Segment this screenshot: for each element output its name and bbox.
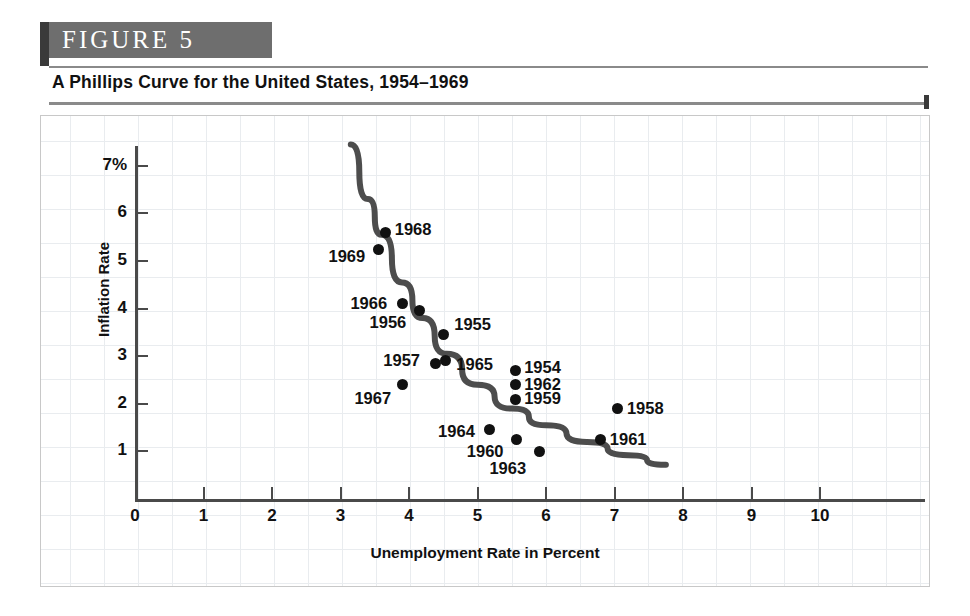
- data-point-label: 1955: [454, 315, 491, 334]
- data-point: [510, 394, 521, 405]
- y-tick-label: 2: [41, 393, 127, 413]
- x-tick-label: 10: [790, 506, 850, 526]
- y-tick: [137, 450, 148, 452]
- x-tick-label: 4: [379, 506, 439, 526]
- data-point-label: 1969: [328, 247, 365, 266]
- header-rule-top: [49, 66, 928, 68]
- x-tick: [682, 487, 684, 499]
- data-point: [397, 379, 408, 390]
- y-tick: [137, 355, 148, 357]
- y-tick: [137, 308, 148, 310]
- data-point-label: 1964: [438, 422, 475, 441]
- x-tick: [477, 487, 479, 499]
- header-rule-bottom: [49, 102, 928, 105]
- figure-badge-label: FIGURE 5: [62, 26, 195, 54]
- y-tick-label: 5: [41, 250, 127, 270]
- y-tick-label: 1: [41, 440, 127, 460]
- data-point: [534, 446, 545, 457]
- data-point-label: 1967: [354, 389, 391, 408]
- data-point: [510, 379, 521, 390]
- x-tick: [614, 487, 616, 499]
- x-tick: [545, 487, 547, 499]
- plot-area: Inflation Rate Unemployment Rate in Perc…: [41, 116, 929, 586]
- data-point-label: 1958: [627, 399, 664, 418]
- figure-badge-tab: [40, 22, 49, 66]
- x-tick: [408, 487, 410, 499]
- figure-title: A Phillips Curve for the United States, …: [52, 72, 469, 93]
- x-tick-label: 0: [105, 506, 165, 526]
- chart-panel: Inflation Rate Unemployment Rate in Perc…: [40, 115, 930, 587]
- data-point-label: 1960: [467, 442, 504, 461]
- x-tick-label: 8: [653, 506, 713, 526]
- x-tick: [751, 487, 753, 499]
- data-point-label: 1959: [524, 389, 561, 408]
- data-point-label: 1968: [395, 220, 432, 239]
- data-point: [511, 434, 522, 445]
- x-tick-label: 2: [242, 506, 302, 526]
- x-tick-label: 6: [516, 506, 576, 526]
- x-tick: [203, 487, 205, 499]
- x-tick: [340, 487, 342, 499]
- x-tick: [271, 487, 273, 499]
- data-point: [438, 329, 449, 340]
- y-tick: [137, 260, 148, 262]
- x-tick-label: 3: [311, 506, 371, 526]
- x-tick-label: 1: [174, 506, 234, 526]
- data-point: [373, 244, 384, 255]
- figure-header: FIGURE 5 A Phillips Curve for the United…: [40, 22, 928, 58]
- header-endcap: [924, 95, 929, 109]
- y-tick-label: 7%: [41, 155, 127, 175]
- y-tick-label: 4: [41, 298, 127, 318]
- figure-page: FIGURE 5 A Phillips Curve for the United…: [0, 0, 970, 616]
- data-point: [397, 298, 408, 309]
- data-point: [430, 358, 441, 369]
- data-point-label: 1956: [370, 313, 407, 332]
- x-tick: [819, 487, 821, 499]
- data-point-label: 1965: [456, 355, 493, 374]
- x-tick-label: 9: [722, 506, 782, 526]
- figure-badge-wrap: FIGURE 5 A Phillips Curve for the United…: [40, 22, 928, 58]
- y-tick: [137, 403, 148, 405]
- data-point: [510, 365, 521, 376]
- data-point-label: 1961: [610, 430, 647, 449]
- y-tick: [137, 165, 148, 167]
- x-axis-title: Unemployment Rate in Percent: [41, 544, 929, 562]
- data-point-label: 1957: [383, 351, 420, 370]
- x-tick-label: 5: [448, 506, 508, 526]
- data-point-label: 1966: [350, 294, 387, 313]
- y-tick: [137, 212, 148, 214]
- y-tick-label: 3: [41, 345, 127, 365]
- x-tick-label: 7: [585, 506, 645, 526]
- data-point-label: 1963: [489, 459, 526, 478]
- y-tick-label: 6: [41, 202, 127, 222]
